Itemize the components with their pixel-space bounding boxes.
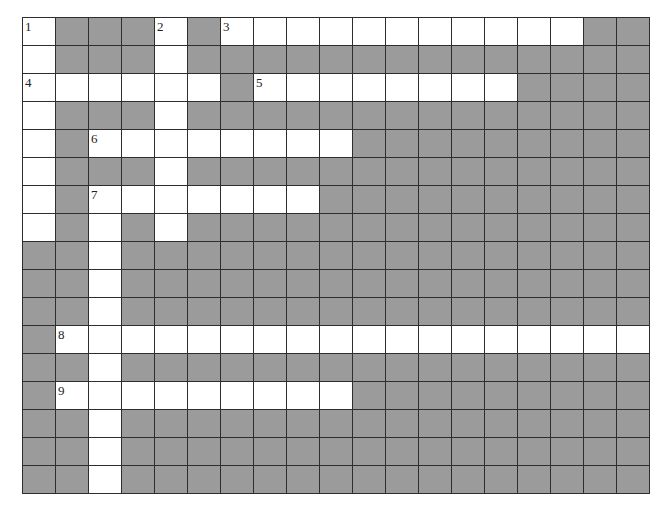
crossword-cell[interactable] — [89, 466, 121, 493]
blocked-cell — [584, 242, 616, 269]
crossword-cell[interactable] — [155, 214, 187, 241]
crossword-cell[interactable] — [353, 74, 385, 101]
crossword-cell[interactable] — [419, 18, 451, 45]
crossword-cell[interactable] — [122, 326, 154, 353]
crossword-cell[interactable] — [518, 18, 550, 45]
crossword-cell[interactable] — [254, 382, 286, 409]
crossword-cell[interactable] — [419, 74, 451, 101]
crossword-cell[interactable] — [287, 18, 319, 45]
crossword-cell[interactable] — [23, 158, 55, 185]
crossword-cell[interactable] — [89, 382, 121, 409]
crossword-cell[interactable] — [452, 74, 484, 101]
crossword-cell[interactable] — [551, 18, 583, 45]
crossword-cell[interactable]: 8 — [56, 326, 88, 353]
crossword-cell[interactable]: 9 — [56, 382, 88, 409]
crossword-cell[interactable] — [287, 74, 319, 101]
crossword-cell[interactable] — [188, 382, 220, 409]
crossword-cell[interactable] — [155, 326, 187, 353]
crossword-cell[interactable] — [122, 74, 154, 101]
crossword-cell[interactable] — [419, 326, 451, 353]
crossword-cell[interactable] — [320, 18, 352, 45]
crossword-cell[interactable] — [320, 326, 352, 353]
crossword-cell[interactable] — [386, 18, 418, 45]
blocked-cell — [485, 438, 517, 465]
crossword-cell[interactable] — [452, 18, 484, 45]
crossword-cell[interactable] — [155, 186, 187, 213]
crossword-cell[interactable] — [584, 326, 616, 353]
crossword-cell[interactable] — [320, 74, 352, 101]
crossword-cell[interactable] — [287, 326, 319, 353]
crossword-cell[interactable] — [89, 74, 121, 101]
crossword-cell[interactable] — [155, 130, 187, 157]
crossword-cell[interactable] — [287, 130, 319, 157]
crossword-cell[interactable] — [452, 326, 484, 353]
crossword-cell[interactable] — [89, 354, 121, 381]
crossword-cell[interactable]: 1 — [23, 18, 55, 45]
crossword-cell[interactable] — [122, 382, 154, 409]
crossword-cell[interactable] — [155, 74, 187, 101]
crossword-cell[interactable] — [155, 158, 187, 185]
crossword-cell[interactable] — [221, 326, 253, 353]
crossword-cell[interactable] — [23, 214, 55, 241]
blocked-cell — [551, 158, 583, 185]
crossword-cell[interactable] — [23, 186, 55, 213]
crossword-cell[interactable] — [221, 382, 253, 409]
blocked-cell — [155, 242, 187, 269]
blocked-cell — [122, 354, 154, 381]
crossword-cell[interactable] — [188, 74, 220, 101]
crossword-cell[interactable] — [23, 46, 55, 73]
crossword-cell[interactable] — [320, 382, 352, 409]
crossword-cell[interactable] — [254, 130, 286, 157]
crossword-cell[interactable] — [287, 186, 319, 213]
crossword-cell[interactable] — [89, 410, 121, 437]
crossword-cell[interactable]: 3 — [221, 18, 253, 45]
crossword-cell[interactable] — [320, 130, 352, 157]
crossword-cell[interactable] — [287, 382, 319, 409]
crossword-cell[interactable] — [56, 74, 88, 101]
crossword-cell[interactable]: 2 — [155, 18, 187, 45]
crossword-cell[interactable] — [89, 438, 121, 465]
blocked-cell — [254, 102, 286, 129]
crossword-cell[interactable] — [254, 186, 286, 213]
crossword-cell[interactable] — [89, 326, 121, 353]
blocked-cell — [320, 46, 352, 73]
crossword-cell[interactable] — [386, 74, 418, 101]
crossword-cell[interactable] — [221, 130, 253, 157]
crossword-cell[interactable] — [89, 298, 121, 325]
blocked-cell — [419, 130, 451, 157]
crossword-cell[interactable] — [353, 326, 385, 353]
crossword-cell[interactable] — [386, 326, 418, 353]
crossword-cell[interactable] — [518, 326, 550, 353]
crossword-cell[interactable] — [89, 214, 121, 241]
crossword-cell[interactable] — [353, 18, 385, 45]
blocked-cell — [23, 354, 55, 381]
crossword-cell[interactable]: 4 — [23, 74, 55, 101]
blocked-cell — [155, 298, 187, 325]
crossword-cell[interactable] — [485, 74, 517, 101]
crossword-cell[interactable] — [155, 46, 187, 73]
crossword-cell[interactable] — [188, 186, 220, 213]
crossword-cell[interactable] — [23, 130, 55, 157]
crossword-cell[interactable] — [23, 102, 55, 129]
crossword-cell[interactable] — [122, 186, 154, 213]
crossword-cell[interactable] — [155, 382, 187, 409]
blocked-cell — [452, 130, 484, 157]
blocked-cell — [320, 214, 352, 241]
crossword-cell[interactable]: 6 — [89, 130, 121, 157]
crossword-cell[interactable] — [188, 326, 220, 353]
crossword-cell[interactable] — [254, 326, 286, 353]
crossword-cell[interactable] — [485, 18, 517, 45]
blocked-cell — [485, 214, 517, 241]
crossword-cell[interactable] — [254, 18, 286, 45]
crossword-cell[interactable]: 5 — [254, 74, 286, 101]
crossword-cell[interactable] — [221, 186, 253, 213]
crossword-cell[interactable] — [551, 326, 583, 353]
crossword-cell[interactable] — [89, 242, 121, 269]
crossword-cell[interactable]: 7 — [89, 186, 121, 213]
crossword-cell[interactable] — [155, 102, 187, 129]
crossword-cell[interactable] — [89, 270, 121, 297]
crossword-cell[interactable] — [617, 326, 649, 353]
crossword-cell[interactable] — [485, 326, 517, 353]
crossword-cell[interactable] — [122, 130, 154, 157]
crossword-cell[interactable] — [188, 130, 220, 157]
